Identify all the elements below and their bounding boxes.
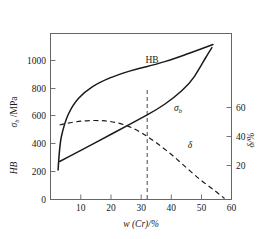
x-tick-60: 60 (227, 203, 237, 213)
y-left-tick-200: 200 (32, 167, 47, 177)
y-left-tick-1000: 1000 (27, 56, 46, 66)
y-right-tick-60: 60 (236, 103, 246, 113)
annotation-delta-label: δ (188, 140, 193, 150)
y-left-tick-600: 600 (32, 111, 47, 121)
chart-svg: 1000 800 600 400 200 0 60 40 20 10 20 30… (0, 0, 261, 239)
x-tick-50: 50 (197, 203, 207, 213)
x-tick-40: 40 (167, 203, 177, 213)
x-tick-10: 10 (76, 203, 86, 213)
svg-text:δ/%: δ/% (246, 132, 256, 147)
y-axis-right-title: δ/% (246, 132, 256, 147)
y-right-tick-40: 40 (236, 132, 246, 142)
x-axis-title: w (Cr)/% (123, 219, 159, 230)
svg-text:HB: HB (9, 161, 19, 175)
x-tick-30: 30 (136, 203, 146, 213)
y-left-tick-800: 800 (32, 84, 47, 94)
x-tick-20: 20 (106, 203, 116, 213)
y-left-tick-0: 0 (41, 195, 46, 205)
y-left-tick-400: 400 (32, 139, 47, 149)
y-right-tick-20: 20 (236, 161, 246, 171)
chart-figure: 1000 800 600 400 200 0 60 40 20 10 20 30… (0, 0, 261, 239)
annotation-hb-label: HB (145, 55, 158, 65)
y-axis-left-secondary-title: HB (9, 161, 19, 175)
